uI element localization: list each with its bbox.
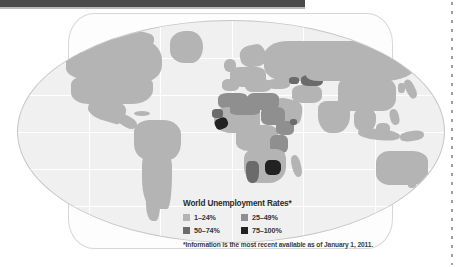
landmass-iran <box>292 85 322 103</box>
landmass-australia <box>376 151 428 185</box>
legend-swatch-50-74-icon <box>183 227 190 234</box>
map-legend: World Unemployment Rates* 1–24% 25–49% 5… <box>183 199 368 248</box>
world-map-figure: World Unemployment Rates* 1–24% 25–49% 5… <box>16 13 446 249</box>
legend-label-25-49: 25–49% <box>252 213 278 222</box>
landmass-mali-niger <box>230 103 260 115</box>
landmass-greenland <box>170 31 203 63</box>
landmass-borneo <box>376 123 390 134</box>
legend-label-1-24: 1–24% <box>194 213 216 222</box>
legend-swatch-25-49-icon <box>241 214 248 221</box>
landmass-canada-arctic <box>100 31 154 47</box>
legend-item-25-49[interactable]: 25–49% <box>241 213 278 222</box>
legend-item-50-74[interactable]: 50–74% <box>183 226 241 235</box>
landmass-namibia <box>246 161 259 183</box>
legend-row-2: 50–74% 75–100% <box>183 226 368 235</box>
top-banner-shadow <box>0 7 305 9</box>
landmass-madagascar <box>289 154 303 178</box>
landmass-caucasus <box>289 77 299 84</box>
legend-swatch-75-100-icon <box>241 227 248 234</box>
landmass-tasmania <box>408 182 416 188</box>
landmass-india <box>318 101 350 133</box>
landmass-djibouti <box>290 119 297 125</box>
landmass-kamchatka <box>416 54 431 76</box>
top-banner-bar <box>0 0 305 7</box>
legend-row-1: 1–24% 25–49% <box>183 213 368 222</box>
landmass-korea <box>398 83 405 93</box>
legend-swatch-1-24-icon <box>183 214 190 221</box>
landmass-turkey <box>266 79 290 89</box>
legend-item-1-24[interactable]: 1–24% <box>183 213 241 222</box>
landmass-zimbabwe <box>265 160 281 175</box>
landmass-caribbean <box>134 111 150 116</box>
landmass-iberia <box>222 79 239 91</box>
legend-label-75-100: 75–100% <box>252 226 282 235</box>
legend-title: World Unemployment Rates* <box>183 199 368 208</box>
landmass-south-america-cone <box>146 193 160 221</box>
legend-label-50-74: 50–74% <box>194 226 220 235</box>
landmass-new-zealand <box>432 170 445 188</box>
right-dotted-divider <box>451 2 453 265</box>
legend-footnote: *Information is the most recent availabl… <box>183 241 368 248</box>
landmass-philippines <box>388 108 401 126</box>
legend-item-75-100[interactable]: 75–100% <box>241 226 282 235</box>
